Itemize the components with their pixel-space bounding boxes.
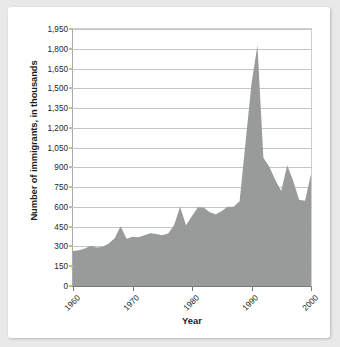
y-tick-mark — [69, 206, 72, 207]
x-tick-mark — [192, 287, 193, 291]
y-tick-label: 1,500 — [48, 84, 69, 93]
y-tick-mark — [69, 246, 72, 247]
x-tick-label: 1990 — [241, 293, 260, 312]
y-tick-label: 1,200 — [48, 123, 69, 132]
y-tick-label: 300 — [54, 242, 68, 251]
y-tick-label: 150 — [54, 262, 68, 271]
x-tick-label: 2000 — [301, 293, 320, 312]
y-tick-label: 900 — [54, 163, 68, 172]
y-tick-label: 1,800 — [48, 44, 69, 53]
y-tick-label: 750 — [54, 183, 68, 192]
y-tick-mark — [69, 88, 72, 89]
y-tick-label: 1,650 — [48, 64, 69, 73]
x-tick-label: 1960 — [63, 293, 82, 312]
y-tick-mark — [69, 108, 72, 109]
y-axis-title: Number of immigrants, in thousands — [28, 31, 39, 251]
y-tick-mark — [69, 127, 72, 128]
y-tick-mark — [69, 187, 72, 188]
x-tick-label: 1970 — [122, 293, 141, 312]
y-tick-label: 1,950 — [48, 25, 69, 34]
x-tick-label: 1980 — [182, 293, 201, 312]
x-tick-mark — [252, 287, 253, 291]
y-tick-mark — [69, 68, 72, 69]
y-tick-mark — [69, 167, 72, 168]
area-series — [73, 29, 311, 286]
y-tick-mark — [69, 226, 72, 227]
x-tick-mark — [73, 287, 74, 291]
figure-card: Number of immigrants, in thousands 01503… — [8, 7, 330, 338]
y-tick-mark — [69, 286, 72, 287]
x-tick-mark — [311, 287, 312, 291]
x-axis-title: Year — [72, 315, 312, 326]
immigration-area-chart: Number of immigrants, in thousands 01503… — [8, 7, 330, 338]
y-tick-mark — [69, 29, 72, 30]
x-tick-mark — [133, 287, 134, 291]
y-tick-mark — [69, 147, 72, 148]
y-tick-mark — [69, 48, 72, 49]
y-tick-label: 600 — [54, 202, 68, 211]
y-tick-label: 1,050 — [48, 143, 69, 152]
area-polygon — [73, 45, 311, 286]
y-tick-mark — [69, 266, 72, 267]
y-tick-label: 450 — [54, 222, 68, 231]
y-tick-label: 0 — [63, 282, 68, 291]
y-tick-label: 1,350 — [48, 104, 69, 113]
plot-area: 01503004506007509001,0501,2001,3501,5001… — [72, 28, 312, 287]
